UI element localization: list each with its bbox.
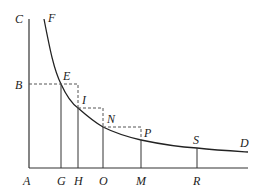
label-P: P <box>143 126 152 140</box>
hyperbola-diagram: C F B E I N P S D A G H O M R <box>0 0 263 194</box>
label-H: H <box>73 174 84 188</box>
label-I: I <box>81 93 87 107</box>
label-F: F <box>47 11 56 25</box>
label-E: E <box>62 69 71 83</box>
label-S: S <box>193 133 199 147</box>
label-C: C <box>15 12 24 26</box>
label-R: R <box>192 174 201 188</box>
label-O: O <box>99 174 108 188</box>
label-N: N <box>106 112 116 126</box>
label-G: G <box>57 174 66 188</box>
label-M: M <box>135 174 147 188</box>
label-A: A <box>22 174 31 188</box>
dashed-B-E-H <box>29 84 78 108</box>
label-D: D <box>239 136 249 150</box>
label-B: B <box>15 78 23 92</box>
